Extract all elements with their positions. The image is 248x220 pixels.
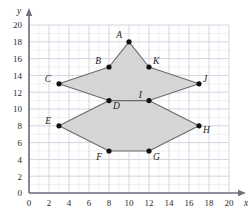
x-tick-8: 8 [107, 198, 112, 208]
x-tick-labels: 02468101214161820 [27, 198, 234, 208]
y-tick-labels: 02468101214161820 [13, 20, 23, 198]
y-tick-10: 10 [13, 104, 23, 114]
vertex-label-E: E [44, 116, 51, 126]
x-tick-20: 20 [225, 198, 235, 208]
vertex-label-F: F [95, 152, 102, 162]
vertex-point-F [106, 148, 111, 153]
x-axis-label: x [243, 198, 248, 208]
vertex-point-K [146, 64, 151, 69]
vertex-point-G [146, 148, 151, 153]
vertex-label-H: H [202, 125, 211, 135]
coordinate-plane-figure: ABCDEFGHIJK 02468101214161820 0246810121… [0, 0, 248, 220]
y-tick-14: 14 [13, 71, 23, 81]
lower-polygon [59, 101, 199, 151]
coordinate-plot: ABCDEFGHIJK 02468101214161820 0246810121… [0, 0, 248, 220]
x-tick-2: 2 [47, 198, 52, 208]
polygon-group [59, 42, 199, 151]
y-axis-label: y [16, 6, 22, 16]
x-tick-12: 12 [145, 198, 154, 208]
vertex-point-C [56, 81, 61, 86]
vertex-label-G: G [153, 152, 160, 162]
vertex-label-B: B [95, 56, 101, 66]
y-tick-2: 2 [18, 172, 23, 182]
y-tick-12: 12 [13, 88, 22, 98]
y-tick-6: 6 [18, 138, 23, 148]
y-tick-4: 4 [18, 155, 23, 165]
vertex-point-H [196, 123, 201, 128]
vertex-point-I [146, 98, 151, 103]
vertex-label-C: C [45, 74, 52, 84]
y-tick-0: 0 [18, 188, 23, 198]
x-tick-10: 10 [125, 198, 135, 208]
vertex-label-K: K [152, 56, 160, 66]
y-tick-18: 18 [13, 37, 23, 47]
y-tick-8: 8 [18, 121, 23, 131]
x-tick-18: 18 [205, 198, 215, 208]
vertex-point-E [56, 123, 61, 128]
x-tick-14: 14 [165, 198, 175, 208]
vertex-point-D [106, 98, 111, 103]
x-tick-0: 0 [27, 198, 32, 208]
vertex-label-A: A [115, 30, 122, 40]
vertex-point-A [126, 39, 131, 44]
y-tick-16: 16 [13, 54, 23, 64]
vertex-point-B [106, 64, 111, 69]
x-tick-4: 4 [67, 198, 72, 208]
upper-polygon [59, 42, 199, 101]
vertex-point-J [196, 81, 201, 86]
x-tick-16: 16 [185, 198, 195, 208]
y-tick-20: 20 [13, 20, 23, 30]
vertex-label-D: D [112, 101, 120, 111]
x-tick-6: 6 [87, 198, 92, 208]
